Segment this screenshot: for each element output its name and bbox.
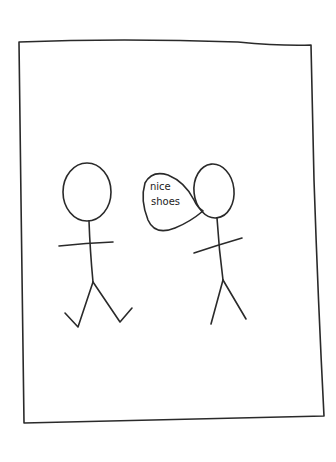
stick-figure-right [191, 162, 246, 324]
stick-figure-left [59, 163, 132, 327]
sketch-canvas: nice shoes [0, 0, 336, 462]
arms [59, 242, 113, 246]
body [89, 221, 93, 282]
frame-border [19, 40, 324, 423]
left-leg [211, 280, 223, 324]
right-leg [223, 280, 246, 319]
left-leg [65, 282, 93, 327]
body [217, 218, 223, 280]
speech-text-line1: nice [150, 181, 171, 192]
speech-text-line2: shoes [151, 196, 180, 207]
head [191, 162, 236, 220]
head [63, 163, 111, 221]
right-leg [93, 282, 132, 322]
